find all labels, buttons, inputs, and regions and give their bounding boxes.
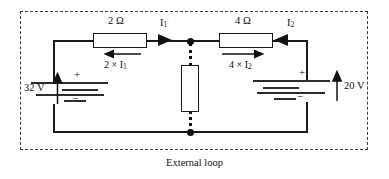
current-label-i2-subscript: 2 (291, 20, 295, 29)
wire-right-lower (306, 102, 308, 133)
current-label-i2: I2 (287, 18, 294, 29)
drop-label-right-resistor: 4 × I2 (229, 60, 252, 71)
battery-right-plate-4-short (274, 98, 296, 100)
wire-top-center-left-segment (146, 40, 190, 42)
wire-bottom (53, 131, 308, 133)
battery-left-value-label: 32 V (24, 83, 45, 94)
figure-caption: External loop (0, 158, 389, 169)
battery-left-plate-3-long (36, 94, 104, 96)
current-label-i1-subscript: 1 (164, 20, 168, 29)
drop-label-left-resistor: 2 × I1 (104, 60, 127, 71)
current-label-i1: I1 (160, 18, 167, 29)
wire-top-left-segment (53, 40, 93, 42)
junction-dot-top (187, 38, 194, 45)
battery-right-value-label: 20 V (344, 81, 365, 92)
drop-label-right-prefix: 4 × I (229, 59, 248, 70)
resistor-right-4ohm (219, 33, 273, 48)
resistor-middle (181, 65, 199, 112)
battery-right-minus-sign: − (297, 91, 303, 102)
resistor-right-value-label: 4 Ω (235, 16, 251, 27)
resistor-left-2ohm (93, 33, 147, 48)
junction-dot-bottom (187, 129, 194, 136)
wire-left-upper (53, 40, 55, 82)
drop-label-left-prefix: 2 × I (104, 59, 123, 70)
battery-left-plate-2-short (62, 89, 98, 91)
resistor-left-value-label: 2 Ω (108, 16, 124, 27)
battery-right-plus-sign: + (299, 67, 305, 78)
drop-label-right-subscript: 2 (248, 62, 252, 71)
wire-top-right-segment (272, 40, 308, 42)
drop-label-left-subscript: 1 (123, 62, 127, 71)
battery-right-plate-3-long (257, 92, 325, 94)
circuit-diagram-figure: 2 Ω 4 Ω I1 I2 2 × I1 4 × I2 32 V 20 V + … (0, 0, 389, 179)
wire-right-upper (306, 40, 308, 80)
middle-branch-dotted-upper (189, 43, 192, 66)
wire-left-lower (53, 104, 55, 133)
battery-left-plus-sign: + (74, 69, 80, 80)
battery-right-plate-1-long (253, 80, 330, 82)
battery-right-plate-2-short (263, 87, 299, 89)
battery-left-minus-sign: − (72, 93, 78, 104)
